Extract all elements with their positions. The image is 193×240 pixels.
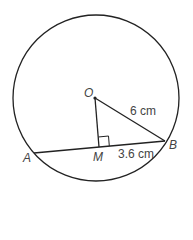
label-a: A <box>23 152 31 164</box>
label-m: M <box>93 151 103 163</box>
label-mb-length: 3.6 cm <box>118 148 154 160</box>
right-angle-marker <box>98 136 109 146</box>
label-b: B <box>169 139 177 151</box>
label-o: O <box>84 87 93 99</box>
label-ob-length: 6 cm <box>130 105 156 117</box>
perpendicular-om <box>95 98 99 147</box>
center-point <box>93 96 96 99</box>
